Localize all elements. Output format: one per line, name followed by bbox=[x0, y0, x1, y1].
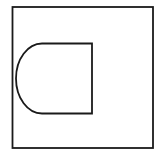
diagram-canvas bbox=[0, 0, 168, 154]
inner-d-shape bbox=[16, 44, 92, 114]
outer-square bbox=[13, 7, 154, 148]
